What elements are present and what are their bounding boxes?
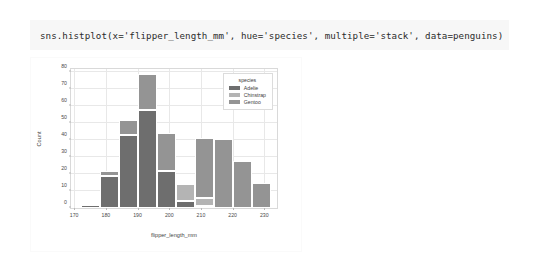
bar-segment-gentoo <box>195 138 214 197</box>
bar-segment-gentoo <box>157 133 176 170</box>
legend-label: Adelie <box>244 85 258 91</box>
code-cell-source: sns.histplot(x='flipper_length_mm', hue=… <box>30 30 503 41</box>
legend-swatch <box>229 100 240 104</box>
legend-swatch <box>229 86 240 90</box>
y-tick-label: 40 <box>61 131 71 137</box>
legend-entries: AdelieChinstrapGentoo <box>229 85 266 105</box>
y-tick-label: 80 <box>61 63 71 69</box>
bar-segment-adelie <box>176 201 195 208</box>
y-tick-mark <box>69 190 71 191</box>
bar-segment-gentoo <box>233 161 252 208</box>
histogram-bar <box>252 183 271 208</box>
y-axis-label: Count <box>36 132 42 147</box>
y-tick-label: 20 <box>61 165 71 171</box>
legend-title: species <box>229 77 266 83</box>
bar-segment-adelie <box>138 110 157 208</box>
bar-segment-gentoo <box>252 183 271 208</box>
legend-label: Chinstrap <box>244 92 266 98</box>
y-tick-mark <box>69 71 71 72</box>
histogram-bar <box>176 182 195 208</box>
x-tick-mark <box>74 208 75 210</box>
x-tick-mark <box>264 208 265 210</box>
y-tick-mark <box>69 105 71 106</box>
notebook-output-area: sns.histplot(x='flipper_length_mm', hue=… <box>0 0 539 275</box>
legend-swatch <box>229 93 240 97</box>
x-tick-mark <box>169 208 170 210</box>
bar-segment-gentoo <box>214 139 233 209</box>
bar-segment-chinstrap <box>176 184 195 201</box>
y-tick-mark <box>69 122 71 123</box>
y-tick-label: 50 <box>61 114 71 120</box>
y-tick-label: 30 <box>61 148 71 154</box>
bar-segment-adelie <box>157 171 176 208</box>
histogram-bar <box>100 171 119 208</box>
code-cell[interactable]: sns.histplot(x='flipper_length_mm', hue=… <box>30 20 509 50</box>
y-tick-mark <box>69 88 71 89</box>
y-tick-mark <box>69 173 71 174</box>
x-tick-mark <box>138 208 139 210</box>
bar-segment-adelie <box>100 176 119 208</box>
bar-segment-gentoo <box>119 120 138 135</box>
histogram-bar <box>119 120 138 208</box>
bar-segment-adelie <box>119 135 138 208</box>
bar-segment-gentoo <box>138 74 157 110</box>
y-tick-label: 0 <box>64 199 71 205</box>
y-tick-label: 60 <box>61 97 71 103</box>
chart-axes: 01020304050607080 170180190200210220230 … <box>70 68 278 209</box>
histogram-bar <box>81 205 100 208</box>
histogram-bar <box>157 133 176 208</box>
histogram-bar <box>214 139 233 209</box>
x-tick-mark <box>201 208 202 210</box>
x-tick-mark <box>106 208 107 210</box>
histogram-bar <box>138 74 157 208</box>
y-tick-label: 70 <box>61 80 71 86</box>
x-axis-label: flipper_length_mm <box>70 232 278 238</box>
y-tick-mark <box>69 139 71 140</box>
bar-segment-chinstrap <box>195 198 214 206</box>
x-tick-mark <box>233 208 234 210</box>
bar-segment-adelie <box>81 205 100 208</box>
legend-item-chinstrap: Chinstrap <box>229 92 266 98</box>
legend-item-adelie: Adelie <box>229 85 266 91</box>
matplotlib-figure: 01020304050607080 170180190200210220230 … <box>31 58 301 251</box>
histogram-bar <box>195 138 214 208</box>
y-tick-mark <box>69 156 71 157</box>
histogram-bar <box>233 161 252 208</box>
chart-legend: species AdelieChinstrapGentoo <box>223 73 273 110</box>
legend-item-gentoo: Gentoo <box>229 99 266 105</box>
y-tick-label: 10 <box>61 182 71 188</box>
legend-label: Gentoo <box>244 99 261 105</box>
